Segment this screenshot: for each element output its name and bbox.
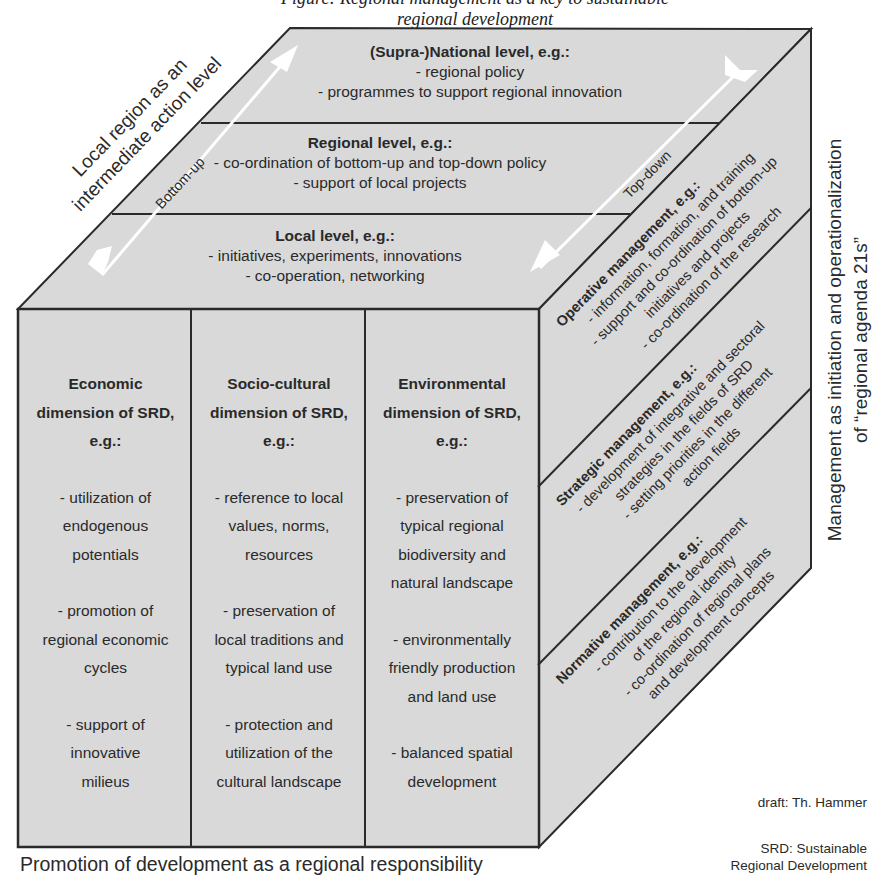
srd-legend: SRD: Sustainable Regional Development bbox=[730, 840, 867, 874]
column-environmental: Environmental dimension of SRD, e.g.: - … bbox=[367, 370, 537, 796]
column-item: - environmentally bbox=[367, 626, 537, 655]
level-item: - regional policy bbox=[300, 62, 640, 82]
column-item: - promotion of bbox=[20, 597, 191, 626]
column-item: - preservation of bbox=[367, 484, 537, 513]
level-local: Local level, e.g.: - initiatives, experi… bbox=[165, 226, 505, 286]
level-title: Regional level, e.g.: bbox=[210, 133, 550, 153]
right-axis-label: Management as initiation and operational… bbox=[822, 50, 874, 630]
level-supranational: (Supra-)National level, e.g.: - regional… bbox=[300, 42, 640, 102]
level-title: (Supra-)National level, e.g.: bbox=[300, 42, 640, 62]
level-title: Local level, e.g.: bbox=[165, 226, 505, 246]
level-item: - support of local projects bbox=[210, 173, 550, 193]
column-item: - reference to local bbox=[193, 484, 365, 513]
draft-credit: draft: Th. Hammer bbox=[758, 795, 867, 810]
level-item: - initiatives, experiments, innovations bbox=[165, 246, 505, 266]
level-item: - co-operation, networking bbox=[165, 266, 505, 286]
bottom-axis-label: Promotion of development as a regional r… bbox=[20, 853, 483, 876]
column-item: - utilization of bbox=[20, 484, 191, 513]
column-socio-cultural: Socio-cultural dimension of SRD, e.g.: -… bbox=[193, 370, 365, 796]
level-regional: Regional level, e.g.: - co-ordination of… bbox=[210, 133, 550, 193]
column-economic: Economic dimension of SRD, e.g.: - utili… bbox=[20, 370, 191, 796]
column-item: - balanced spatial bbox=[367, 739, 537, 768]
column-item: - support of bbox=[20, 711, 191, 740]
column-item: - preservation of bbox=[193, 597, 365, 626]
level-item: - programmes to support regional innovat… bbox=[300, 82, 640, 102]
level-item: - co-ordination of bottom-up and top-dow… bbox=[210, 153, 550, 173]
column-item: - protection and bbox=[193, 711, 365, 740]
